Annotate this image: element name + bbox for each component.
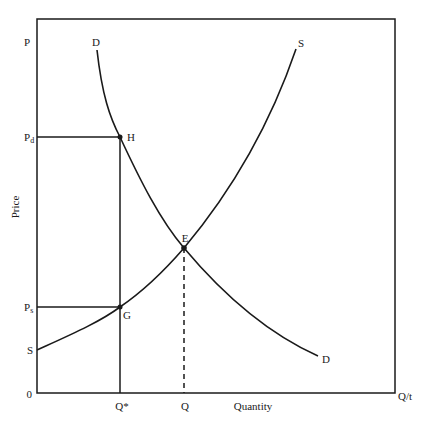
- supply-bottom-label: S: [27, 344, 33, 356]
- point-h: [118, 135, 123, 140]
- demand-top-label: D: [92, 36, 100, 48]
- demand-bottom-label: D: [322, 353, 330, 365]
- supply-top-label: S: [298, 37, 304, 49]
- pd-label: Pd: [24, 131, 34, 145]
- y-axis-label: Price: [9, 196, 21, 219]
- point-e-label: E: [182, 232, 189, 244]
- q-star-label: Q*: [115, 400, 128, 412]
- point-h-label: H: [127, 131, 135, 143]
- supply-demand-diagram: P 0 Price Quantity Q/t Pd Ps Q* Q D D S …: [0, 0, 427, 426]
- q-label: Q: [181, 400, 189, 412]
- x-axis-label: Quantity: [234, 400, 273, 412]
- point-g-label: G: [123, 309, 131, 321]
- point-e: [181, 245, 187, 251]
- ps-label: Ps: [24, 301, 33, 315]
- supply-curve: [37, 49, 296, 350]
- point-g: [118, 305, 123, 310]
- origin-label: 0: [27, 388, 33, 400]
- x-end-label: Q/t: [398, 390, 412, 402]
- y-top-label: P: [24, 36, 30, 48]
